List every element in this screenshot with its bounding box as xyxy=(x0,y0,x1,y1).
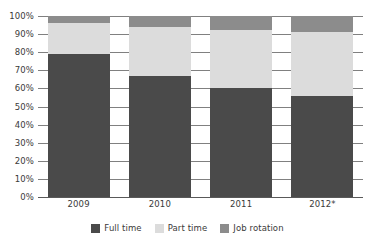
bar-segment-full-time xyxy=(129,76,191,197)
legend-item-job-rotation[interactable]: Job rotation xyxy=(220,224,283,233)
y-axis-labels: 0%10%20%30%40%50%60%70%80%90%100% xyxy=(0,16,34,197)
legend-label: Part time xyxy=(168,224,208,233)
bar-segment-full-time xyxy=(210,88,272,197)
x-tick-label: 2010 xyxy=(149,200,171,209)
legend-item-part-time[interactable]: Part time xyxy=(155,224,208,233)
bar-segment-job-rotation xyxy=(129,16,191,27)
y-tick-label: 60% xyxy=(15,84,34,93)
bar-group xyxy=(291,16,353,197)
bar-group xyxy=(129,16,191,197)
chart-legend: Full timePart timeJob rotation xyxy=(0,224,375,233)
y-tick-label: 80% xyxy=(15,48,34,57)
bars-layer xyxy=(38,16,363,197)
bar-stack xyxy=(291,16,353,197)
y-tick-label: 50% xyxy=(15,102,34,111)
stacked-bar-chart: 0%10%20%30%40%50%60%70%80%90%100% 200920… xyxy=(0,0,375,250)
bar-stack xyxy=(48,16,110,197)
y-tick-label: 30% xyxy=(15,138,34,147)
legend-swatch-icon xyxy=(91,224,100,233)
bar-segment-full-time xyxy=(48,54,110,197)
x-tick-label: 2012* xyxy=(309,200,335,209)
y-tick-label: 70% xyxy=(15,66,34,75)
bar-group xyxy=(48,16,110,197)
bar-segment-job-rotation xyxy=(48,16,110,23)
y-tick-label: 90% xyxy=(15,30,34,39)
legend-label: Full time xyxy=(104,224,141,233)
legend-item-full-time[interactable]: Full time xyxy=(91,224,141,233)
x-tick-label: 2011 xyxy=(230,200,252,209)
bar-segment-job-rotation xyxy=(291,16,353,32)
bar-segment-full-time xyxy=(291,96,353,197)
x-axis-labels: 2009201020112012* xyxy=(38,200,363,214)
y-tick-label: 100% xyxy=(9,12,34,21)
legend-swatch-icon xyxy=(220,224,229,233)
y-tick-label: 0% xyxy=(20,193,34,202)
gridline-0pct xyxy=(38,197,363,198)
legend-label: Job rotation xyxy=(233,224,283,233)
bar-segment-part-time xyxy=(129,27,191,76)
y-tick-label: 10% xyxy=(15,175,34,184)
bar-stack xyxy=(210,16,272,197)
bar-segment-part-time xyxy=(291,32,353,95)
bar-segment-job-rotation xyxy=(210,16,272,30)
bar-segment-part-time xyxy=(210,30,272,88)
legend-swatch-icon xyxy=(155,224,164,233)
bar-stack xyxy=(129,16,191,197)
x-tick-label: 2009 xyxy=(68,200,90,209)
y-tick-label: 40% xyxy=(15,120,34,129)
bar-group xyxy=(210,16,272,197)
bar-segment-part-time xyxy=(48,23,110,54)
y-tick-label: 20% xyxy=(15,157,34,166)
